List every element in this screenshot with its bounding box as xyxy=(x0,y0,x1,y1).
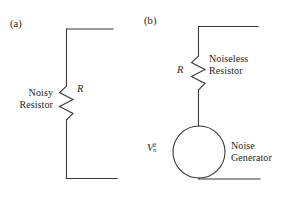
resistor-zigzag-b xyxy=(192,56,206,90)
panel-a-tag: (a) xyxy=(10,18,22,30)
resistor-zigzag-a xyxy=(60,86,74,120)
panel-b-tag: (b) xyxy=(144,15,157,27)
noise-generator-circle xyxy=(173,126,225,178)
panel-b-generator-caption: Noise Generator xyxy=(231,140,287,163)
panel-b-resistor-caption: Noiseless Resistor xyxy=(209,53,281,76)
noise-voltage-superscript: 2 xyxy=(153,141,156,148)
figure-canvas: (a) Noisy Resistor R (b) R Noiseless Res… xyxy=(0,0,287,208)
panel-a-caption: Noisy Resistor xyxy=(0,87,53,110)
noise-voltage-symbol: Vn2 xyxy=(147,141,156,153)
resistor-symbol-a: R xyxy=(77,83,83,94)
resistor-symbol-b: R xyxy=(177,64,183,75)
